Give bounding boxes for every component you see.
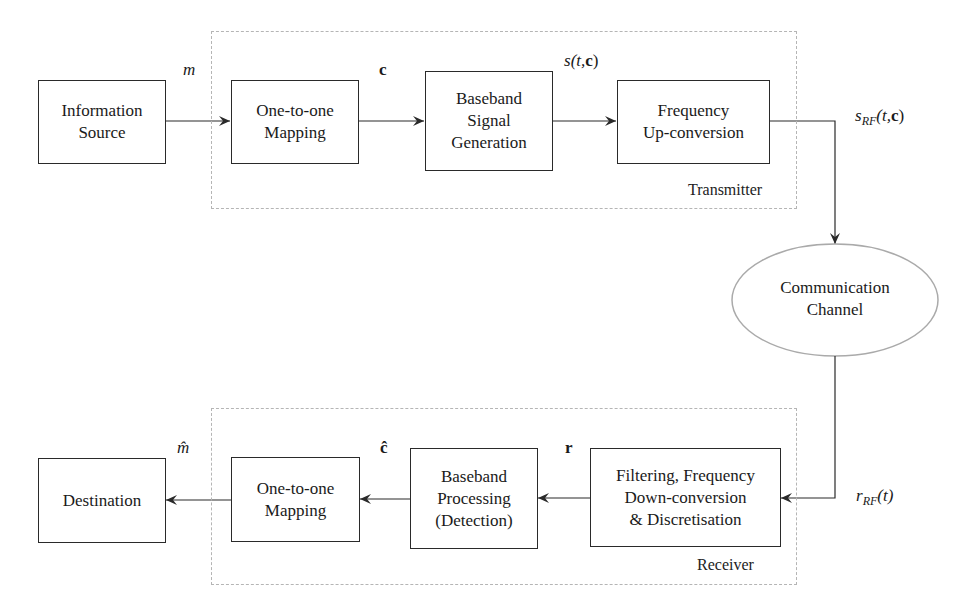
signal-s-label: s(t,c) <box>564 51 598 71</box>
tx-one-to-one-mapping-block: One-to-one Mapping <box>231 80 359 164</box>
signal-r-rf-label: rRF(t) <box>856 486 893 509</box>
signal-r-label: r <box>565 438 573 458</box>
baseband-signal-generation-block: Baseband Signal Generation <box>425 71 553 171</box>
signal-s-rf-label: sRF(t,c) <box>855 106 904 129</box>
receiver-label: Receiver <box>697 556 754 574</box>
channel-label: Communication Channel <box>735 277 935 321</box>
information-source-block: Information Source <box>38 80 166 164</box>
rx-one-to-one-mapping-block: One-to-one Mapping <box>231 457 360 542</box>
destination-block: Destination <box>38 458 166 543</box>
signal-m-hat-label: m̂ <box>177 438 189 458</box>
signal-c-label: c <box>379 60 387 80</box>
baseband-processing-block: Baseband Processing (Detection) <box>410 448 538 549</box>
filtering-downconversion-block: Filtering, Frequency Down-conversion & D… <box>590 448 781 547</box>
signal-c-hat-label: ĉ <box>380 438 388 458</box>
signal-m-label: m <box>183 60 195 80</box>
frequency-up-conversion-block: Frequency Up-conversion <box>617 80 770 164</box>
transmitter-label: Transmitter <box>688 181 762 199</box>
